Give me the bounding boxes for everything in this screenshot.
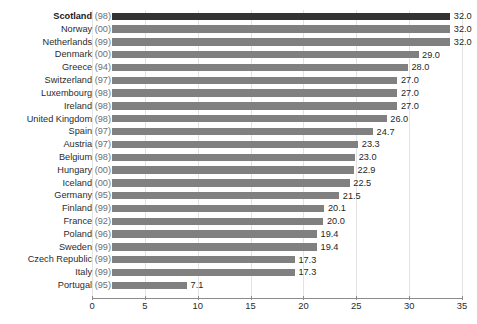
bar-row[interactable]: Czech Republic (99)17.3 bbox=[0, 253, 477, 266]
bar-value-label: 26.0 bbox=[387, 114, 408, 125]
country-name: Germany bbox=[54, 190, 92, 200]
bar[interactable] bbox=[112, 282, 187, 289]
bar[interactable] bbox=[112, 205, 324, 212]
bar[interactable] bbox=[112, 38, 450, 45]
bar-row-label: Luxembourg (98) bbox=[41, 87, 111, 100]
bar-row-label: Germany (95) bbox=[54, 189, 111, 202]
bar-row[interactable]: Belgium (98)23.0 bbox=[0, 151, 477, 164]
bar-rows: Scotland (98)32.0Norway (00)32.0Netherla… bbox=[0, 10, 477, 292]
bar-row[interactable]: Poland (96)19.4 bbox=[0, 228, 477, 241]
bar[interactable] bbox=[112, 243, 317, 250]
country-name: United Kingdom bbox=[27, 114, 92, 124]
bar-row[interactable]: Hungary (00)22.9 bbox=[0, 164, 477, 177]
bar-row[interactable]: Norway (00)32.0 bbox=[0, 23, 477, 36]
country-name: Norway bbox=[61, 24, 92, 34]
survey-year: (98) bbox=[92, 101, 111, 111]
bar-row[interactable]: Spain (97)24.7 bbox=[0, 125, 477, 138]
country-name: France bbox=[63, 216, 92, 226]
x-axis-tick-mark bbox=[92, 296, 93, 300]
bar-value-label: 22.9 bbox=[354, 165, 375, 176]
bar-row-label: Netherlands (99) bbox=[43, 36, 111, 49]
bar-row[interactable]: Scotland (98)32.0 bbox=[0, 10, 477, 23]
bar[interactable] bbox=[112, 89, 397, 96]
bar[interactable] bbox=[112, 51, 419, 58]
bar-value-label: 23.0 bbox=[355, 152, 376, 163]
survey-year: (99) bbox=[92, 203, 111, 213]
bar-row[interactable]: Portugal (95)7.1 bbox=[0, 279, 477, 292]
bar-track: 20.0 bbox=[112, 218, 462, 225]
country-name: Iceland bbox=[62, 178, 92, 188]
bar[interactable] bbox=[112, 166, 354, 173]
bar[interactable] bbox=[112, 256, 295, 263]
bar-row[interactable]: Switzerland (97)27.0 bbox=[0, 74, 477, 87]
bar[interactable] bbox=[112, 64, 408, 71]
bar-row-label: Czech Republic (99) bbox=[28, 253, 111, 266]
bar-value-label: 32.0 bbox=[450, 24, 471, 35]
bar-track: 24.7 bbox=[112, 128, 462, 135]
bar[interactable] bbox=[112, 128, 373, 135]
bar[interactable] bbox=[112, 102, 397, 109]
bar-value-label: 17.3 bbox=[295, 255, 316, 266]
survey-year: (97) bbox=[92, 139, 111, 149]
bar[interactable] bbox=[112, 115, 387, 122]
bar-row-label: Iceland (00) bbox=[62, 177, 111, 190]
bar[interactable] bbox=[112, 179, 350, 186]
bar-row-label: Switzerland (97) bbox=[45, 74, 111, 87]
bar-row-label: Spain (97) bbox=[69, 125, 111, 138]
country-name: Denmark bbox=[55, 49, 92, 59]
x-axis-tick-label: 0 bbox=[89, 300, 94, 311]
country-name: Ireland bbox=[64, 101, 92, 111]
bar-row[interactable]: Germany (95)21.5 bbox=[0, 189, 477, 202]
bar-row[interactable]: Greece (94)28.0 bbox=[0, 61, 477, 74]
bar[interactable] bbox=[112, 25, 450, 32]
bar-row-label: Greece (94) bbox=[62, 61, 111, 74]
bar-row-label: Hungary (00) bbox=[57, 164, 111, 177]
bar[interactable] bbox=[112, 154, 355, 161]
bar-row[interactable]: France (92)20.0 bbox=[0, 215, 477, 228]
bar[interactable] bbox=[112, 192, 339, 199]
bar-track: 27.0 bbox=[112, 77, 462, 84]
bar-track: 19.4 bbox=[112, 243, 462, 250]
x-axis-tick-mark bbox=[145, 296, 146, 300]
x-axis-tick-label: 25 bbox=[351, 300, 361, 311]
survey-year: (00) bbox=[92, 24, 111, 34]
x-axis-tick-mark bbox=[462, 296, 463, 300]
bar-row-label: Italy (99) bbox=[75, 266, 111, 279]
bar-row[interactable]: Austria (97)23.3 bbox=[0, 138, 477, 151]
bar-row-label: Austria (97) bbox=[63, 138, 111, 151]
bar-row[interactable]: United Kingdom (98)26.0 bbox=[0, 113, 477, 126]
bar-row[interactable]: Netherlands (99)32.0 bbox=[0, 36, 477, 49]
survey-year: (00) bbox=[92, 178, 111, 188]
bar[interactable] bbox=[112, 141, 358, 148]
survey-year: (99) bbox=[92, 242, 111, 252]
survey-year: (98) bbox=[92, 152, 111, 162]
bar-row-label: Ireland (98) bbox=[64, 100, 111, 113]
bar-row[interactable]: Sweden (99)19.4 bbox=[0, 241, 477, 254]
bar-row-label: Belgium (98) bbox=[59, 151, 111, 164]
bar-value-label: 23.3 bbox=[358, 139, 379, 150]
survey-year: (95) bbox=[92, 190, 111, 200]
bar[interactable] bbox=[112, 230, 317, 237]
bar-track: 20.1 bbox=[112, 205, 462, 212]
country-name: Portugal bbox=[58, 280, 92, 290]
survey-year: (92) bbox=[92, 216, 111, 226]
bar-row[interactable]: Denmark (00)29.0 bbox=[0, 48, 477, 61]
bar[interactable] bbox=[112, 77, 397, 84]
bar-value-label: 27.0 bbox=[397, 75, 418, 86]
bar[interactable] bbox=[112, 218, 323, 225]
bar-row-label: Finland (99) bbox=[62, 202, 111, 215]
bar-row[interactable]: Iceland (00)22.5 bbox=[0, 177, 477, 190]
bar-track: 29.0 bbox=[112, 51, 462, 58]
bar-row[interactable]: Luxembourg (98)27.0 bbox=[0, 87, 477, 100]
bar-chart: Scotland (98)32.0Norway (00)32.0Netherla… bbox=[0, 0, 477, 324]
bar-row[interactable]: Finland (99)20.1 bbox=[0, 202, 477, 215]
bar-value-label: 32.0 bbox=[450, 11, 471, 22]
country-name: Scotland bbox=[53, 11, 92, 21]
bar-track: 19.4 bbox=[112, 230, 462, 237]
bar[interactable] bbox=[112, 13, 450, 20]
bar-row[interactable]: Italy (99)17.3 bbox=[0, 266, 477, 279]
bar-row[interactable]: Ireland (98)27.0 bbox=[0, 100, 477, 113]
bar[interactable] bbox=[112, 269, 295, 276]
bar-track: 17.3 bbox=[112, 256, 462, 263]
bar-track: 22.5 bbox=[112, 179, 462, 186]
